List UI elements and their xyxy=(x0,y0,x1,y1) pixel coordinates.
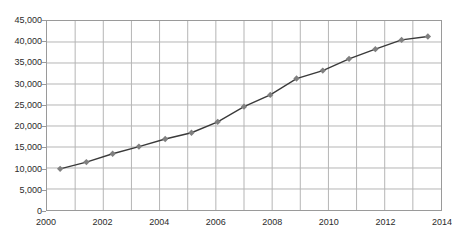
y-axis-tick-label: 10,000 xyxy=(0,164,42,173)
x-axis-labels: 20002002200420062008201020122014 xyxy=(46,216,442,232)
data-point-marker xyxy=(320,67,326,73)
y-axis-tick-label: 15,000 xyxy=(0,143,42,152)
data-point-marker xyxy=(425,33,431,39)
data-point-marker xyxy=(57,166,63,172)
data-point-marker xyxy=(398,37,404,43)
data-point-marker xyxy=(346,56,352,62)
x-axis-tick-label: 2008 xyxy=(262,216,282,228)
data-point-marker xyxy=(293,75,299,81)
x-axis-tick-label: 2006 xyxy=(206,216,226,228)
x-axis-tick-label: 2012 xyxy=(375,216,395,228)
y-axis-labels: 05,00010,00015,00020,00025,00030,00035,0… xyxy=(0,20,42,211)
y-axis-tick-label: 30,000 xyxy=(0,79,42,88)
x-axis-tick-label: 2002 xyxy=(93,216,113,228)
data-point-marker xyxy=(372,46,378,52)
y-axis-tick-label: 5,000 xyxy=(0,185,42,194)
plot-area xyxy=(46,20,442,211)
data-point-marker xyxy=(188,130,194,136)
data-point-marker xyxy=(109,151,115,157)
data-point-marker xyxy=(241,104,247,110)
y-axis-tick-label: 35,000 xyxy=(0,58,42,67)
x-axis-tick-label: 2010 xyxy=(319,216,339,228)
x-axis-tick-label: 2004 xyxy=(149,216,169,228)
chart-title xyxy=(0,0,443,6)
data-point-marker xyxy=(83,159,89,165)
y-axis-tick xyxy=(42,211,46,212)
y-axis-tick-label: 20,000 xyxy=(0,122,42,131)
data-series xyxy=(47,21,441,210)
y-axis-tick-label: 25,000 xyxy=(0,100,42,109)
x-axis-tick-label: 2014 xyxy=(432,216,452,228)
y-axis-tick-label: 45,000 xyxy=(0,16,42,25)
data-point-marker xyxy=(215,119,221,125)
x-axis-tick-label: 2000 xyxy=(36,216,56,228)
data-point-marker xyxy=(162,136,168,142)
data-point-marker xyxy=(136,143,142,149)
y-axis-tick-label: 0 xyxy=(0,207,42,216)
y-axis-tick-label: 40,000 xyxy=(0,37,42,46)
